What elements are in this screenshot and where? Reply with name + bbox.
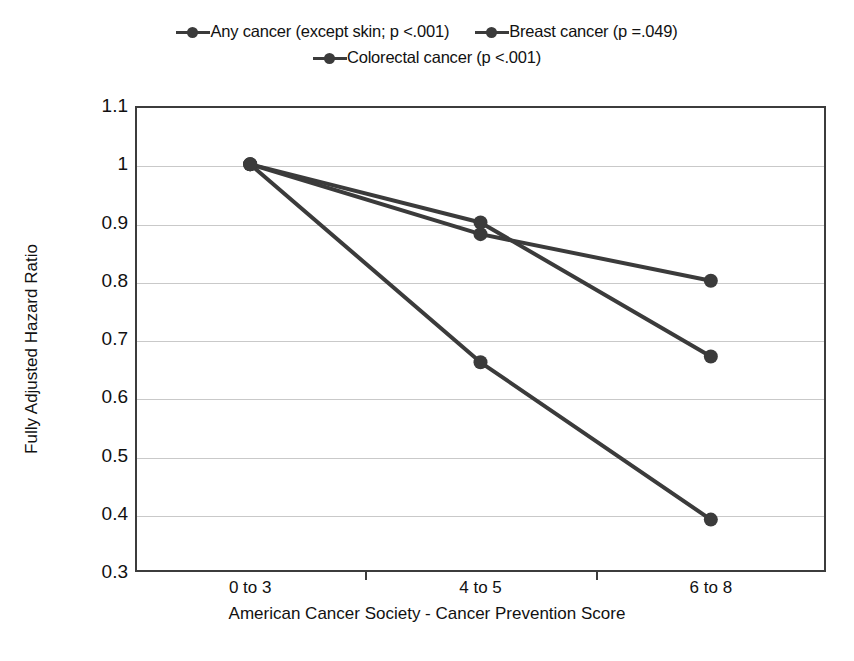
y-axis-tick-label: 0.6 (28, 386, 128, 408)
y-axis-tick-label: 0.4 (28, 503, 128, 525)
legend-row-1: Any cancer (except skin; p <.001) Breast… (176, 22, 677, 41)
gridline (137, 166, 824, 167)
legend-item-breast-cancer[interactable]: Breast cancer (p =.049) (475, 22, 677, 41)
legend-marker-icon (313, 50, 347, 66)
x-axis-tick-mark (365, 572, 367, 580)
legend-label-colorectal-cancer: Colorectal cancer (p <.001) (347, 48, 541, 67)
gridline (137, 458, 824, 459)
plot-area (135, 106, 826, 572)
chart-figure: Any cancer (except skin; p <.001) Breast… (0, 0, 854, 661)
y-axis-tick-label: 0.9 (28, 212, 128, 234)
legend-marker-icon (176, 24, 210, 40)
gridline (137, 225, 824, 226)
legend-label-breast-cancer: Breast cancer (p =.049) (509, 22, 677, 41)
legend-row-2: Colorectal cancer (p <.001) (313, 48, 541, 67)
legend-marker-icon (475, 24, 509, 40)
legend-item-any-cancer[interactable]: Any cancer (except skin; p <.001) (176, 22, 449, 41)
gridline (137, 516, 824, 517)
y-axis-tick-label: 1.1 (28, 95, 128, 117)
legend-item-colorectal-cancer[interactable]: Colorectal cancer (p <.001) (313, 48, 541, 67)
y-axis-tick-label: 0.3 (28, 561, 128, 583)
y-axis-tick-label: 1 (28, 153, 128, 175)
gridline (137, 341, 824, 342)
x-axis-tick-label: 4 to 5 (459, 578, 502, 598)
y-axis-tick-label: 0.7 (28, 328, 128, 350)
x-axis-tick-label: 0 to 3 (229, 578, 272, 598)
x-axis-title: American Cancer Society - Cancer Prevent… (0, 604, 854, 624)
x-axis-tick-mark (596, 572, 598, 580)
x-axis-tick-label: 6 to 8 (690, 578, 733, 598)
y-axis-tick-label: 0.5 (28, 445, 128, 467)
gridline (137, 399, 824, 400)
y-axis-title: Fully Adjusted Hazard Ratio (22, 189, 42, 509)
chart-legend: Any cancer (except skin; p <.001) Breast… (0, 22, 854, 67)
gridline (137, 283, 824, 284)
legend-label-any-cancer: Any cancer (except skin; p <.001) (210, 22, 449, 41)
y-axis-tick-label: 0.8 (28, 270, 128, 292)
